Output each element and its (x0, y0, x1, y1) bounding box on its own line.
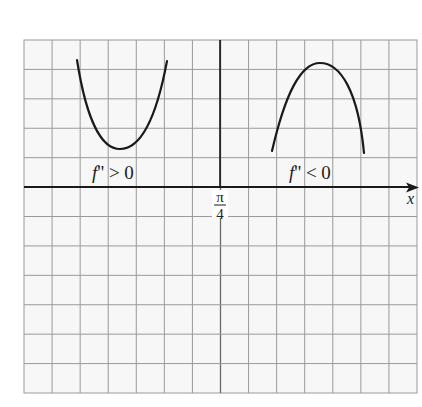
label-condition: '' < 0 (294, 162, 331, 183)
tick-label-numerator: π (216, 189, 224, 205)
tick-label-denominator: 4 (216, 206, 224, 222)
concave-down-label: f'' < 0 (289, 162, 331, 183)
concavity-diagram: f'' > 0 f'' < 0 π 4 x (0, 0, 422, 407)
concave-up-label: f'' > 0 (92, 162, 134, 183)
label-condition: '' > 0 (97, 162, 134, 183)
x-axis-label: x (406, 190, 414, 207)
